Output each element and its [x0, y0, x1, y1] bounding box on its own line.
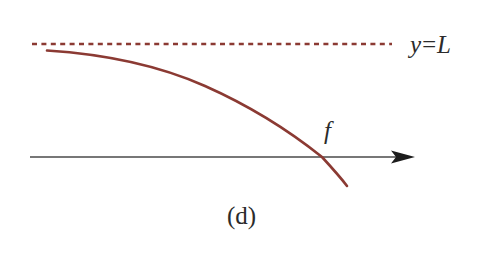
function-curve-f — [47, 51, 347, 187]
asymptote-label: y=L — [410, 32, 450, 57]
figure-container: y=L f (d) — [0, 0, 483, 253]
x-axis-group — [30, 151, 415, 164]
curve-label: f — [324, 118, 331, 143]
panel-caption: (d) — [0, 203, 483, 228]
